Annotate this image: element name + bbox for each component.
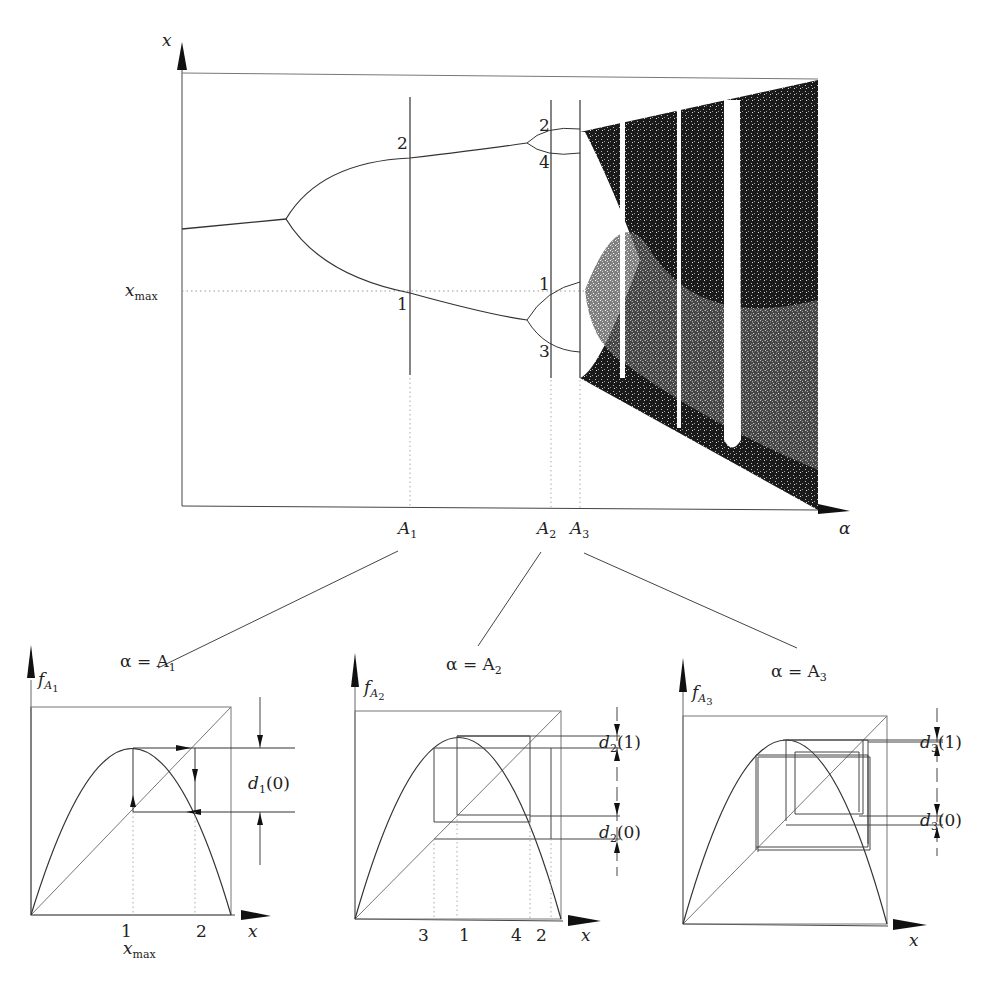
- arrow-down-icon: [192, 769, 198, 782]
- distance-subscript: 2: [610, 832, 617, 845]
- period-3-window: [724, 100, 741, 448]
- panel1-tick: 2: [196, 923, 207, 940]
- branch-label: 1: [539, 276, 550, 293]
- panel2-cobweb: [434, 736, 620, 839]
- y-axis-label: x: [162, 32, 172, 49]
- panel2-x-label: x: [581, 927, 591, 944]
- x-max-subscript: max: [135, 290, 158, 303]
- distance-subscript: 1: [259, 783, 266, 796]
- panel1-y-arrow-icon: [27, 645, 35, 678]
- distance-arg: (0): [938, 810, 962, 830]
- distance-arg: (0): [266, 773, 290, 793]
- distance-arrow-icon: [614, 803, 620, 815]
- panel3-distance-label-1: d3(1): [920, 734, 962, 751]
- distance-arg: (1): [617, 732, 641, 752]
- marker-symbol: A: [398, 518, 410, 538]
- figure-canvas: [0, 0, 1001, 986]
- distance-arrow-icon: [257, 735, 263, 747]
- branch-label: 3: [539, 343, 550, 360]
- marker-subscript: 1: [410, 528, 417, 541]
- panel2-y-arrow-icon: [351, 653, 359, 687]
- arrow-right-icon: [176, 745, 191, 751]
- period4-branch: [527, 143, 580, 154]
- arrow-left-icon: [186, 809, 201, 815]
- panel1-x-max-label: xmax: [123, 940, 156, 957]
- panel-title-subscript: 3: [820, 671, 827, 684]
- y-axis-arrow-icon: [177, 42, 187, 70]
- panel2-title: α = A2: [446, 656, 502, 673]
- panel1-x-arrow-icon: [241, 910, 271, 920]
- panel2-tick: 2: [536, 927, 547, 944]
- period4-branch: [527, 128, 580, 143]
- panel1-x-label: x: [248, 923, 258, 940]
- panel3-x-label: x: [909, 932, 919, 949]
- marker-a2: A2: [537, 520, 556, 537]
- period4-branch: [527, 282, 580, 320]
- panel3-distance-label-0: d3(0): [920, 812, 962, 829]
- period4-branch: [527, 320, 580, 352]
- distance-arrow-icon: [257, 813, 263, 825]
- panel3-title: α = A3: [771, 663, 827, 680]
- x-axis: [182, 506, 818, 510]
- panel2-tick: 4: [511, 927, 522, 944]
- connector-a1: [158, 551, 398, 668]
- period2-upper: [286, 143, 527, 219]
- distance-subscript: 3: [931, 820, 938, 833]
- panel3-y-arrow-icon: [679, 658, 687, 692]
- distance-symbol: d: [920, 732, 931, 752]
- distance-symbol: d: [248, 773, 259, 793]
- marker-symbol: A: [537, 518, 549, 538]
- panel2-distance-label-0: d2(0): [599, 824, 641, 841]
- distance-symbol: d: [599, 822, 610, 842]
- panel-title-subscript: 2: [495, 664, 502, 677]
- panel-title-text: α = A: [120, 651, 169, 671]
- connector-a2: [478, 552, 541, 646]
- panel2-distance-label-1: d2(1): [599, 734, 641, 751]
- y-label-subsubscript: 2: [378, 691, 384, 702]
- upper-bound-line: [182, 73, 818, 79]
- marker-subscript: 3: [582, 528, 589, 541]
- panel3-y-label: fA3: [692, 684, 713, 701]
- arrow-up-icon: [130, 795, 136, 807]
- branch-label: 2: [397, 135, 408, 152]
- x-max-symbol: x: [123, 938, 133, 958]
- x-axis-arrow-icon: [818, 504, 850, 514]
- distance-arg: (0): [617, 822, 641, 842]
- panel2-tick: 1: [459, 927, 470, 944]
- x-max-symbol: x: [125, 280, 135, 300]
- distance-subscript: 2: [610, 742, 617, 755]
- periodic-window: [620, 118, 625, 378]
- panel2-tick: 3: [418, 927, 429, 944]
- connector-a3: [584, 553, 797, 648]
- panel-title-text: α = A: [446, 654, 495, 674]
- panel3-diagonal: [683, 716, 887, 924]
- panel3-cobweb: [756, 740, 943, 852]
- branch-label: 1: [397, 296, 408, 313]
- y-label-subsubscript: 3: [706, 696, 712, 707]
- panel3-x-arrow-icon: [893, 919, 927, 930]
- marker-subscript: 2: [549, 528, 556, 541]
- panel-a2: [351, 653, 620, 926]
- distance-symbol: d: [599, 732, 610, 752]
- marker-symbol: A: [570, 518, 582, 538]
- panel1-distance-label: d1(0): [248, 775, 290, 792]
- marker-a3: A3: [570, 520, 589, 537]
- bifurcation-diagram: [158, 42, 850, 668]
- periodic-window: [677, 108, 681, 428]
- distance-arg: (1): [938, 732, 962, 752]
- panel-a3: [679, 658, 943, 930]
- branch-label: 4: [539, 154, 550, 171]
- distance-subscript: 3: [931, 742, 938, 755]
- branch-label: 2: [539, 117, 550, 134]
- x-max-subscript: max: [133, 948, 156, 961]
- panel1-map-curve: [31, 749, 231, 916]
- panel2-y-label: fA2: [364, 679, 385, 696]
- marker-a1: A1: [398, 520, 417, 537]
- panel-title-subscript: 1: [169, 661, 176, 674]
- panel3-map-curve: [683, 740, 887, 924]
- panel1-title: α = A1: [120, 653, 176, 670]
- fixed-point-branch: [182, 219, 286, 229]
- y-label-subsubscript: 1: [52, 683, 58, 694]
- panel-title-text: α = A: [771, 661, 820, 681]
- panel1-y-label: fA1: [38, 671, 59, 688]
